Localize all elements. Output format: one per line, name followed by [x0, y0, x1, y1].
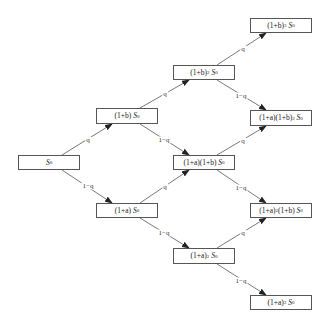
node-subscript: 0 [215, 254, 218, 259]
tree-node-naab: (1+a)2 (1+b) S0 [250, 203, 312, 218]
node-factor: (1+a) [191, 252, 207, 260]
node-exponent: 3 [284, 300, 287, 305]
node-exponent: 3 [284, 23, 287, 28]
node-factor: (1+b) [267, 22, 284, 30]
node-factor: (1+a) [259, 207, 275, 215]
edge-probability-label: q [240, 230, 246, 237]
edge-probability-label: q [240, 46, 246, 53]
node-factor: (1+b) [275, 114, 292, 122]
tree-node-nbb: (1+b)2 S0 [173, 65, 235, 80]
edge-probability-label: q [162, 91, 168, 98]
node-factor: (1+b) [200, 159, 217, 167]
node-factor: (1+b) [278, 207, 295, 215]
edge-probability-label: q [162, 184, 168, 191]
edge-probability-label: 1−q [158, 230, 171, 237]
node-factor: (1+a) [183, 159, 199, 167]
edge-probability-label: 1−q [235, 185, 248, 192]
edge-probability-label: 1−q [235, 278, 248, 285]
edge-probability-label: q [85, 137, 91, 144]
node-factor: (1+b) [190, 69, 207, 77]
node-subscript: 0 [300, 116, 303, 121]
tree-node-nabb: (1+a) (1+b)2 S0 [250, 110, 312, 126]
node-exponent: 2 [207, 70, 210, 75]
node-subscript: 0 [292, 300, 295, 305]
node-subscript: 0 [222, 160, 225, 165]
edge-probability-label: 1−q [82, 183, 95, 190]
tree-node-n0: S0 [18, 155, 80, 170]
tree-node-naaa: (1+a)3 S0 [250, 295, 312, 310]
tree-node-nbbb: (1+b)3 S0 [250, 18, 312, 33]
tree-node-naa: (1+a)2 S0 [173, 248, 235, 264]
node-subscript: 0 [50, 160, 53, 165]
node-subscript: 0 [215, 70, 218, 75]
tree-node-na: (1+a) S0 [96, 203, 158, 218]
node-subscript: 0 [292, 23, 295, 28]
node-exponent: 2 [207, 254, 210, 259]
edge-probability-label: 1−q [235, 93, 248, 100]
node-factor: (1+b) [115, 112, 132, 120]
node-factor: (1+a) [268, 299, 284, 307]
edge-probability-label: 1−q [158, 137, 171, 144]
node-subscript: 0 [137, 208, 140, 213]
edge-probability-label: q [240, 138, 246, 145]
tree-node-nb: (1+b) S0 [96, 108, 158, 124]
node-subscript: 0 [300, 208, 303, 213]
node-factor: (1+a) [115, 207, 131, 215]
tree-node-nab: (1+a) (1+b) S0 [173, 155, 235, 170]
node-factor: (1+a) [259, 114, 275, 122]
binomial-tree-diagram: S0(1+b) S0(1+a) S0(1+b)2 S0(1+a) (1+b) S… [0, 0, 334, 330]
node-subscript: 0 [137, 114, 140, 119]
node-exponent: 2 [292, 116, 295, 121]
